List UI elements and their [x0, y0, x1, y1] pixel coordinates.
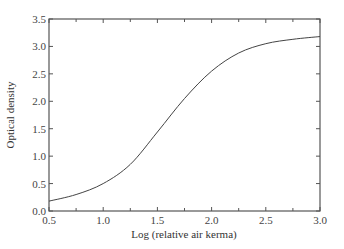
x-tick-label: 2.5 [259, 214, 273, 226]
x-tick-label: 1.0 [96, 214, 110, 226]
x-tick-label: 2.0 [205, 214, 219, 226]
y-tick-label: 3.0 [32, 40, 46, 52]
y-tick-label: 0.0 [32, 205, 46, 217]
chart-svg: 0.51.01.52.02.53.00.00.51.01.52.02.53.03… [0, 0, 344, 249]
plot-frame [49, 19, 320, 211]
y-tick-label: 0.5 [32, 178, 46, 190]
data-curve [49, 37, 320, 202]
plot-area: 0.51.01.52.02.53.00.00.51.01.52.02.53.03… [32, 13, 327, 226]
x-axis-label: Log (relative air kerma) [131, 228, 237, 241]
y-tick-label: 1.5 [32, 123, 46, 135]
y-tick-label: 2.5 [32, 68, 46, 80]
y-tick-label: 3.5 [32, 13, 46, 25]
y-axis-label: Optical density [4, 81, 16, 148]
x-tick-label: 3.0 [313, 214, 327, 226]
y-tick-label: 1.0 [32, 150, 46, 162]
y-tick-label: 2.0 [32, 95, 46, 107]
x-tick-label: 1.5 [151, 214, 165, 226]
chart: 0.51.01.52.02.53.00.00.51.01.52.02.53.03… [0, 0, 344, 249]
